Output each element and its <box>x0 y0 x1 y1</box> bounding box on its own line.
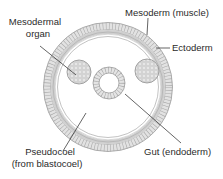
mesoderm-layer <box>53 32 163 142</box>
pseudocoelomate-cross-section-diagram: Mesodermal organ Mesoderm (muscle) Ectod… <box>0 0 223 179</box>
gut-label: Gut (endoderm) <box>144 146 211 157</box>
mesodermal-organ-label-line1: Mesodermal <box>9 16 61 27</box>
ectoderm-layer <box>44 23 173 152</box>
mesodermal-organ-label-line2: organ <box>26 28 50 39</box>
gut-endoderm <box>93 67 125 99</box>
ectoderm-label: Ectoderm <box>172 42 213 53</box>
mesoderm-leader-line <box>147 18 148 35</box>
pseudocoel-label-line1: Pseudocoel <box>25 146 75 157</box>
pseudocoel-label-line2: (from blastocoel) <box>12 158 83 169</box>
mesoderm-label: Mesoderm (muscle) <box>125 7 209 18</box>
mesodermal-organ-left <box>67 60 91 84</box>
mesodermal-organ-right <box>135 59 159 83</box>
